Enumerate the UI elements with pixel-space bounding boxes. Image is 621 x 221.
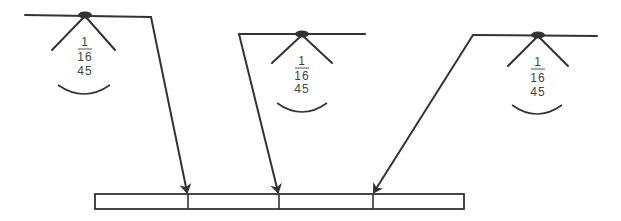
target-bar [95, 194, 464, 209]
lamp-middle: 1 16 45 [239, 31, 365, 193]
lamp-numerator: 1 [534, 55, 542, 69]
lighting-diagram: 1 16 45 1 16 45 1 16 45 [0, 0, 621, 221]
aim-arrow-middle [239, 34, 278, 192]
lamp-numerator: 1 [298, 54, 306, 68]
lamp-angle: 45 [530, 85, 545, 99]
aim-arrow-right [374, 35, 473, 192]
lamp-numerator: 1 [81, 35, 89, 49]
lamp-denominator: 16 [77, 50, 92, 64]
lamp-left: 1 16 45 [25, 12, 187, 193]
lamp-angle: 45 [77, 64, 92, 78]
lamp-denominator: 16 [530, 71, 545, 85]
lamp-angle: 45 [294, 82, 309, 96]
aim-arrow-left [151, 17, 187, 192]
lamp-right: 1 16 45 [374, 32, 597, 193]
lamp-denominator: 16 [294, 69, 309, 83]
beam-arc-icon [512, 105, 562, 114]
beam-arc-icon [277, 103, 327, 112]
beam-arc-icon [58, 85, 110, 94]
